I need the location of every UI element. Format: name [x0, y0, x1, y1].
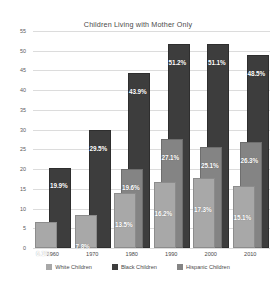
x-axis-tick-label: 2010	[231, 251, 271, 257]
x-axis-tick-label: 1990	[152, 251, 192, 257]
legend-swatch-icon	[112, 264, 118, 270]
gridline	[33, 70, 270, 71]
bar-value-label: 6.1%	[36, 250, 50, 257]
chart-title: Children Living with Mother Only	[0, 20, 276, 29]
y-axis-tick-label: 45	[0, 67, 26, 73]
legend-item[interactable]: Hispanic Children	[177, 264, 230, 270]
gridline	[33, 90, 270, 91]
gridline	[33, 130, 270, 131]
bar-value-label: 26.3%	[241, 157, 259, 164]
bar	[35, 222, 57, 248]
bar-value-label: 51.1%	[208, 59, 226, 66]
gridline	[33, 149, 270, 150]
bar-value-label: 16.2%	[155, 210, 173, 217]
bar-value-label: 15.1%	[234, 214, 252, 221]
bar-value-label: 19.6%	[122, 184, 140, 191]
gridline	[33, 31, 270, 32]
y-axis-tick-label: 20	[0, 166, 26, 172]
legend-swatch-icon	[177, 264, 183, 270]
legend-item[interactable]: Black Children	[112, 264, 157, 270]
bar-value-label: 48.5%	[248, 70, 266, 77]
y-axis-tick-label: 30	[0, 127, 26, 133]
y-axis-tick-label: 15	[0, 186, 26, 192]
y-axis-tick-label: 35	[0, 107, 26, 113]
plot-area: 6.1%19.9%7.8%29.5%13.5%19.6%43.9%16.2%27…	[33, 31, 270, 248]
y-axis-tick-label: 40	[0, 87, 26, 93]
bar-value-label: 19.9%	[50, 182, 68, 189]
y-axis-tick-label: 5	[0, 225, 26, 231]
y-axis-tick-label: 25	[0, 146, 26, 152]
bar-value-label: 27.1%	[162, 154, 180, 161]
gridline	[33, 110, 270, 111]
y-axis-tick-label: 10	[0, 206, 26, 212]
y-axis-tick-label: 50	[0, 48, 26, 54]
bar-value-label: 17.3%	[194, 206, 212, 213]
chart-legend: White ChildrenBlack ChildrenHispanic Chi…	[0, 264, 276, 270]
bar-value-label: 43.9%	[129, 88, 147, 95]
bar-value-label: 7.8%	[76, 243, 90, 250]
bar-chart: Children Living with Mother Only 0510152…	[0, 0, 276, 293]
bar-value-label: 25.1%	[201, 162, 219, 169]
y-axis-tick-label: 0	[0, 245, 26, 251]
bar-value-label: 51.2%	[169, 59, 187, 66]
gridline	[33, 51, 270, 52]
bar-value-label: 29.5%	[90, 145, 108, 152]
legend-label: Black Children	[121, 264, 157, 270]
legend-item[interactable]: White Children	[46, 264, 92, 270]
y-axis-tick-label: 55	[0, 28, 26, 34]
x-axis-tick-label: 1970	[73, 251, 113, 257]
gridline	[33, 248, 270, 249]
legend-label: White Children	[55, 264, 92, 270]
legend-label: Hispanic Children	[186, 264, 230, 270]
x-axis-tick-label: 1980	[112, 251, 152, 257]
x-axis-tick-label: 2000	[191, 251, 231, 257]
legend-swatch-icon	[46, 264, 52, 270]
bar-value-label: 13.5%	[115, 221, 133, 228]
